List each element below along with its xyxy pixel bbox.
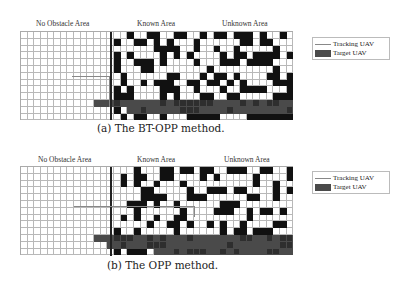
grid-cell — [61, 215, 68, 222]
grid-cell — [220, 107, 227, 114]
grid-cell — [54, 181, 61, 188]
grid-cell — [54, 235, 61, 242]
grid-cell — [207, 32, 214, 39]
grid-cell — [81, 39, 88, 46]
grid-cell — [127, 174, 134, 181]
grid-cell — [127, 235, 134, 242]
grid-cell — [48, 59, 55, 66]
grid-cell — [154, 242, 161, 249]
grid-cell — [41, 201, 48, 208]
grid-cell — [54, 114, 61, 121]
grid-cell — [34, 221, 41, 228]
grid-cell — [81, 194, 88, 201]
grid-cell — [273, 59, 280, 66]
grid-cell — [273, 215, 280, 222]
grid-cell — [127, 167, 134, 174]
grid-cell — [160, 93, 167, 100]
grid-cell — [174, 46, 181, 53]
grid-cell — [134, 249, 141, 256]
grid-cell — [200, 32, 207, 39]
grid-cell — [34, 100, 41, 107]
grid-cell — [167, 187, 174, 194]
grid-cell — [160, 114, 167, 121]
grid-cell — [253, 187, 260, 194]
grid-cell — [247, 167, 254, 174]
grid-cell — [67, 221, 74, 228]
grid-cell — [67, 46, 74, 53]
grid-cell — [207, 187, 214, 194]
grid-cell — [187, 194, 194, 201]
grid-cell — [200, 59, 207, 66]
grid-cell — [41, 107, 48, 114]
grid-cell — [200, 249, 207, 256]
grid-cell — [260, 215, 267, 222]
grid-cell — [180, 181, 187, 188]
grid-cell — [160, 228, 167, 235]
grid-cell — [48, 242, 55, 249]
grid-cell — [74, 242, 81, 249]
grid-cell — [127, 100, 134, 107]
grid-cell — [174, 235, 181, 242]
grid-cell — [227, 208, 234, 215]
grid-cell — [141, 107, 148, 114]
grid-cell — [114, 181, 121, 188]
grid-cell — [81, 32, 88, 39]
grid-cell — [220, 59, 227, 66]
grid-cell — [273, 221, 280, 228]
grid-cell — [94, 167, 101, 174]
grid-cell — [214, 181, 221, 188]
grid-cell — [114, 174, 121, 181]
grid-cell — [127, 59, 134, 66]
grid-cell — [280, 208, 287, 215]
grid-cell — [34, 107, 41, 114]
grid-cell — [114, 221, 121, 228]
grid-cell — [28, 249, 35, 256]
grid-cell — [240, 187, 247, 194]
grid-cell — [67, 114, 74, 121]
grid-cell — [147, 194, 154, 201]
grid-cell — [87, 114, 94, 121]
grid-cell — [21, 242, 28, 249]
grid-cell — [34, 32, 41, 39]
grid-cell — [267, 93, 274, 100]
grid-cell — [167, 73, 174, 80]
grid-cell — [200, 66, 207, 73]
grid-cell — [81, 235, 88, 242]
grid-cell — [28, 52, 35, 59]
grid-cell — [114, 242, 121, 249]
grid-cell — [194, 235, 201, 242]
grid-cell — [207, 201, 214, 208]
grid-cell — [61, 235, 68, 242]
grid-cell — [280, 73, 287, 80]
grid-cell — [87, 174, 94, 181]
label-known-area: Known Area — [137, 19, 175, 28]
grid-cell — [207, 215, 214, 222]
grid-cell — [121, 107, 128, 114]
grid-cell — [240, 208, 247, 215]
grid-cell — [227, 73, 234, 80]
grid-cell — [227, 194, 234, 201]
grid-cell — [127, 114, 134, 121]
grid-cell — [167, 228, 174, 235]
grid-cell — [234, 242, 241, 249]
grid-cell — [200, 73, 207, 80]
grid-cell — [54, 73, 61, 80]
grid-cell — [247, 66, 254, 73]
grid-cell — [260, 187, 267, 194]
grid-cell — [141, 66, 148, 73]
grid-cell — [220, 174, 227, 181]
grid-cell — [28, 181, 35, 188]
grid-cell — [194, 59, 201, 66]
grid-cell — [267, 66, 274, 73]
grid-cell — [34, 249, 41, 256]
grid-cell — [41, 167, 48, 174]
grid-cell — [207, 73, 214, 80]
grid-cell — [54, 39, 61, 46]
grid-cell — [74, 114, 81, 121]
grid-cell — [220, 114, 227, 121]
grid-cell — [174, 32, 181, 39]
grid-cell — [214, 174, 221, 181]
grid-cell — [200, 221, 207, 228]
grid-cell — [214, 208, 221, 215]
grid-cell — [81, 249, 88, 256]
